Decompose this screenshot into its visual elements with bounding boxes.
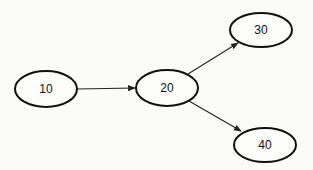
node-label: 20 <box>160 81 174 95</box>
edge-20-to-30 <box>188 43 238 74</box>
node-label: 30 <box>254 23 268 37</box>
graph-canvas: 10 20 30 40 <box>0 0 313 170</box>
edge-20-to-40 <box>189 101 241 131</box>
edge-10-to-20 <box>77 88 135 89</box>
node-40: 40 <box>234 128 296 162</box>
node-label: 40 <box>258 138 272 152</box>
node-20: 20 <box>136 70 198 106</box>
node-10: 10 <box>15 71 77 107</box>
node-label: 10 <box>39 82 53 96</box>
node-30: 30 <box>230 13 292 47</box>
